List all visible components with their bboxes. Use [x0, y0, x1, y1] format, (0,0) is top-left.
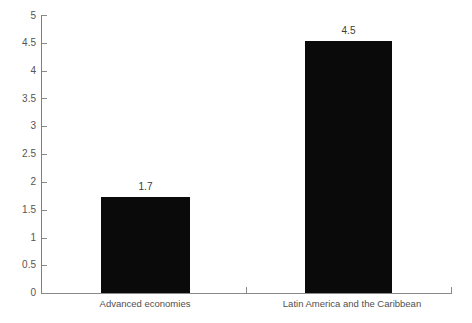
x-axis-category-label-latin-america-and-the-caribbean: Latin America and the Caribbean [252, 298, 452, 309]
bar-latin-america-and-the-caribbean [305, 41, 392, 293]
y-tick-1-5 [42, 210, 47, 211]
y-tick-4 [42, 71, 47, 72]
x-axis-category-tick [246, 287, 247, 294]
y-axis-label-3-5: 3.5 [22, 94, 36, 104]
y-tick-0 [42, 293, 47, 294]
bar-advanced-economies [101, 197, 190, 293]
y-axis-label-1: 1 [30, 233, 36, 243]
bar-value-advanced-economies: 1.7 [105, 182, 186, 192]
y-axis-label-5: 5 [30, 11, 36, 21]
y-axis-label-4-5: 4.5 [22, 38, 36, 48]
y-tick-3 [42, 126, 47, 127]
y-tick-2-5 [42, 154, 47, 155]
y-axis-label-2: 2 [30, 177, 36, 187]
y-tick-1 [42, 238, 47, 239]
y-tick-5 [42, 15, 47, 16]
y-axis-label-3: 3 [30, 121, 36, 131]
y-tick-0-5 [42, 265, 47, 266]
y-axis-label-0-5: 0.5 [22, 260, 36, 270]
x-axis-category-label-advanced-economies: Advanced economies [55, 298, 235, 309]
bar-chart: 5 4.5 4 3.5 3 2.5 2 1.5 1 0.5 0 1.7 4.5 … [0, 0, 472, 323]
y-axis-label-4: 4 [30, 66, 36, 76]
bar-value-latin-america-and-the-caribbean: 4.5 [308, 26, 389, 36]
y-axis-label-1-5: 1.5 [22, 205, 36, 215]
y-axis-label-2-5: 2.5 [22, 149, 36, 159]
y-axis-label-0: 0 [30, 288, 36, 298]
y-tick-4-5 [42, 43, 47, 44]
y-tick-3-5 [42, 98, 47, 99]
y-tick-2 [42, 182, 47, 183]
x-axis-end-tick [451, 287, 452, 294]
